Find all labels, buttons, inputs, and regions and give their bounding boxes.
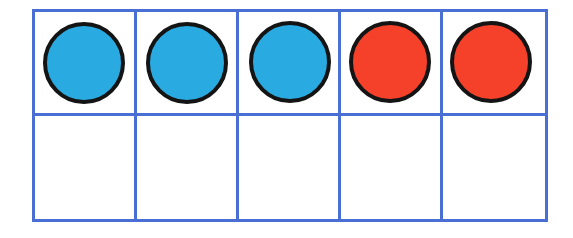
counter-blue[interactable]	[43, 22, 125, 104]
ten-frame-cell[interactable]	[341, 12, 443, 116]
ten-frame-cell[interactable]	[443, 12, 545, 116]
counter-red[interactable]	[349, 21, 431, 103]
ten-frame-cell[interactable]	[137, 12, 239, 116]
counter-blue[interactable]	[146, 22, 228, 104]
counter-blue[interactable]	[249, 21, 331, 103]
ten-frame-cell-empty[interactable]	[443, 116, 545, 220]
ten-frame-cell-empty[interactable]	[341, 116, 443, 220]
counter-red[interactable]	[450, 21, 532, 103]
ten-frame-cell-empty[interactable]	[137, 116, 239, 220]
canvas	[0, 0, 573, 238]
ten-frame-cell-empty[interactable]	[35, 116, 137, 220]
ten-frame-cell-empty[interactable]	[239, 116, 341, 220]
ten-frame-cell[interactable]	[35, 12, 137, 116]
ten-frame-cell[interactable]	[239, 12, 341, 116]
ten-frame-grid	[32, 9, 548, 222]
